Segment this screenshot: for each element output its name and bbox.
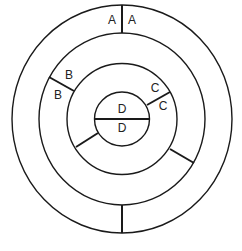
concentric-ring-diagram: AABBCCDD	[0, 0, 242, 251]
segment-lower-right-divider	[170, 149, 194, 163]
region-label-c: C	[159, 99, 168, 113]
region-label-d: D	[118, 121, 127, 135]
diagram-canvas: AABBCCDD	[0, 0, 242, 251]
region-label-a: A	[128, 13, 136, 27]
region-label-a: A	[108, 13, 116, 27]
labels-group: AABBCCDD	[54, 13, 168, 135]
region-label-c: C	[151, 81, 160, 95]
segment-lower-left-divider	[76, 133, 98, 147]
region-label-d: D	[118, 102, 127, 116]
dividers-group	[49, 5, 194, 233]
region-label-b: B	[54, 88, 62, 102]
region-label-b: B	[65, 68, 73, 82]
